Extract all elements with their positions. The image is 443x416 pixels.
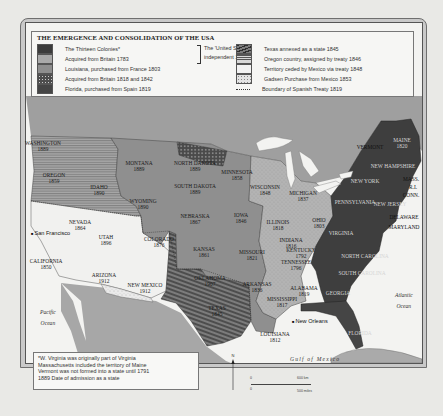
state-label-missouri: MISSOURI1821 [239, 249, 265, 261]
state-name: GEORGIA [326, 290, 350, 296]
state-label-kentucky: KENTUCKY1792 [286, 247, 316, 259]
legend-item-florida-1819: Florida, purchased from Spain 1819 [37, 84, 151, 93]
state-admission-year: 1889 [25, 146, 61, 152]
legend-item-gadsden-1853: Gadsen Purchase from Mexico 1853 [236, 74, 352, 83]
legend-label: Territory ceded by Mexico via treaty 184… [264, 66, 362, 72]
north-label: N [232, 353, 235, 358]
legend-item-thirteen-colonies: The Thirteen Colonies* [37, 44, 120, 53]
state-label-wisconsin: WISCONSIN1848 [250, 184, 280, 196]
state-name: FLORIDA [348, 330, 371, 336]
legend-item-spanish-boundary-1819: Boundary of Spanish Treaty 1819 [236, 84, 342, 93]
state-label-conn: CONN. [403, 192, 420, 198]
state-name: VERMONT [357, 144, 384, 150]
state-label-minnesota: MINNESOTA1858 [221, 169, 252, 181]
state-label-tennessee: TENNESSEE1796 [281, 259, 311, 271]
state-label-ohio: OHIO1803 [312, 217, 325, 229]
legend-label: Florida, purchased from Spain 1819 [65, 86, 151, 92]
state-name: NEW JERSEY [374, 201, 407, 207]
state-label-washington: WASHINGTON1889 [25, 140, 61, 152]
state-name: R.I. [409, 184, 417, 190]
state-admission-year: 1821 [239, 255, 265, 261]
city-new-orleans: ■New Orleans [292, 318, 328, 324]
legend-item-louisiana-1803: Louisiana, purchased from France 1803 [37, 64, 160, 73]
ocean-label-line: Ocean [395, 303, 413, 309]
state-admission-year: 1889 [125, 166, 152, 172]
state-admission-year: 1850 [30, 264, 63, 270]
north-arrow: N [230, 352, 236, 392]
legend-label: Boundary of Spanish Treaty 1819 [262, 86, 342, 92]
scale-km-label: 600 km [297, 376, 308, 380]
state-label-texas: TEXAS1845 [208, 305, 225, 317]
state-label-iowa: IOWA1846 [234, 212, 248, 224]
state-label-new-hampshire: NEW HAMPSHIRE [371, 163, 416, 169]
state-label-south-dakota: SOUTH DAKOTA1889 [174, 183, 216, 195]
state-name: NEW YORK [351, 178, 380, 184]
legend: THE EMERGENCE AND CONSOLIDATION OF THE U… [31, 31, 414, 97]
state-name: PENNSYLVANIA [335, 199, 375, 205]
state-admission-year: 1845 [208, 311, 225, 317]
legend-label: Oregon country, assigned by treaty 1846 [264, 56, 361, 62]
state-admission-year: 1876 [144, 242, 174, 248]
legend-item-britain-1818-1842: Acquired from Britain 1818 and 1842 [37, 74, 153, 83]
state-admission-year: 1912 [128, 288, 163, 294]
state-admission-year: 1907 [194, 281, 225, 287]
legend-label: The Thirteen Colonies* [65, 46, 120, 52]
city-name: San Francisco [34, 230, 70, 236]
scale-line [251, 384, 311, 385]
ocean-label-line: Atlantic [395, 292, 413, 298]
ocean-label-line: Ocean [40, 320, 56, 326]
ocean-label-atlantic-ocean: AtlanticOcean [395, 292, 413, 309]
legend-label: Louisiana, purchased from France 1803 [65, 66, 160, 72]
state-label-mississippi: MISSISSIPPI1817 [267, 296, 297, 308]
state-label-nebraska: NEBRASKA1867 [180, 213, 209, 225]
state-label-new-jersey: NEW JERSEY [374, 201, 407, 207]
state-label-oregon: OREGON1859 [43, 172, 65, 184]
state-label-south-carolina: SOUTH CAROLINA [338, 270, 385, 276]
footnote-line: 1889 Date of admission as a state [38, 375, 194, 382]
swatch-britain-1783 [37, 54, 53, 64]
swatch-spanish-boundary [236, 89, 250, 91]
state-name: VIRGINIA [329, 230, 354, 236]
swatch-thirteen-colonies [37, 44, 53, 54]
state-label-wyoming: WYOMING1890 [129, 198, 156, 210]
legend-label: Acquired from Britain 1783 [65, 56, 129, 62]
state-admission-year: 1848 [250, 190, 280, 196]
state-admission-year: 1817 [267, 302, 297, 308]
state-admission-year: 1861 [193, 252, 215, 258]
state-admission-year: 1890 [129, 204, 156, 210]
legend-item-mexican-cession-1848: Territory ceded by Mexico via treaty 184… [236, 64, 362, 73]
state-name: CONN. [403, 192, 420, 198]
state-label-louisiana: LOUISIANA1812 [260, 331, 289, 343]
ocean-label-pacific-ocean: PacificOcean [40, 309, 56, 326]
footnote-line: *W. Virginia was originally part of Virg… [38, 355, 194, 362]
legend-item-britain-1783: Acquired from Britain 1783 [37, 54, 129, 63]
city-name: New Orleans [295, 318, 327, 324]
legend-label: Acquired from Britain 1818 and 1842 [65, 76, 153, 82]
state-label-kansas: KANSAS1861 [193, 246, 215, 258]
state-admission-year: 1859 [43, 178, 65, 184]
state-name: MASS. [403, 176, 419, 182]
state-admission-year: 1864 [69, 225, 91, 231]
state-label-vermont: VERMONT [357, 144, 384, 150]
legend-item-oregon-1846: Oregon country, assigned by treaty 1846 [236, 54, 361, 63]
state-name: NEW HAMPSHIRE [371, 163, 416, 169]
ocean-label-line: Gulf of Mexico [290, 356, 340, 362]
state-admission-year: 1896 [99, 240, 114, 246]
state-label-pennsylvania: PENNSYLVANIA [335, 199, 375, 205]
swatch-britain-1818-1842 [37, 74, 53, 84]
state-label-idaho: IDAHO1890 [90, 184, 107, 196]
ocean-label-gulf-of-mexico: Gulf of Mexico [290, 356, 340, 362]
state-label-georgia: GEORGIA [326, 290, 350, 296]
state-label-arkansas: ARKANSAS1836 [242, 281, 271, 293]
state-label-virginia: VIRGINIA [329, 230, 354, 236]
state-label-illinois: ILLINOIS1818 [267, 219, 290, 231]
legend-label: Texas annexed as a state 1845 [264, 46, 339, 52]
state-admission-year: 1867 [180, 219, 209, 225]
state-label-california: CALIFORNIA1850 [30, 258, 63, 270]
legend-label: Gadsen Purchase from Mexico 1853 [264, 76, 352, 82]
state-admission-year: 1889 [174, 166, 216, 172]
state-label-r-i: R.I. [409, 184, 417, 190]
state-admission-year: 1912 [92, 278, 116, 284]
city-san-francisco: ■San Francisco [31, 230, 70, 236]
state-label-mass: MASS. [403, 176, 419, 182]
